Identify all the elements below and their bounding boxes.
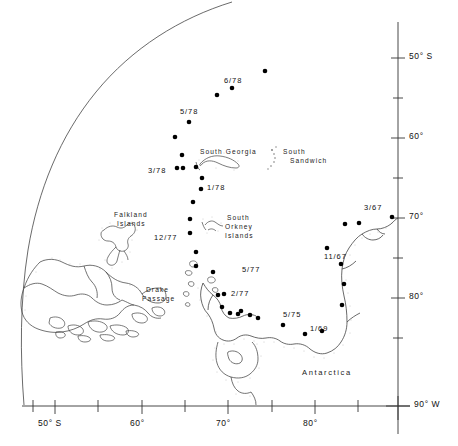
place-label-drake-line1: Drake — [146, 286, 169, 294]
station-dot — [215, 93, 220, 98]
station-dot — [343, 222, 348, 227]
axis-right-label-90w: 90° W — [414, 399, 440, 409]
place-label-drake-line2: Passage — [142, 295, 175, 303]
axis-bottom-label-70: 70° — [216, 418, 231, 428]
station-dot — [248, 313, 253, 318]
station-dot — [256, 316, 261, 321]
station-dot — [239, 309, 244, 314]
station-dot — [194, 264, 199, 269]
station-dot — [181, 166, 186, 171]
station-dot — [230, 86, 235, 91]
station-dot — [188, 231, 193, 236]
place-label-south-sandwich-line2: Sandwich — [290, 157, 327, 165]
station-dot — [342, 282, 347, 287]
station-dot — [175, 166, 180, 171]
station-dot — [339, 262, 344, 267]
station-dot — [216, 293, 221, 298]
station-label-1-78: 1/78 — [207, 183, 225, 192]
axis-right-label-80: 80° — [409, 291, 424, 301]
axis-bottom-label-60: 60° — [130, 418, 145, 428]
station-dot — [228, 311, 233, 316]
station-label-5-75: 5/75 — [283, 310, 301, 319]
place-label-south-georgia: South Georgia — [200, 148, 257, 156]
axis-right-label-60: 60° — [409, 131, 424, 141]
place-label-antarctica: Antarctica — [302, 368, 352, 377]
ice-shelf-stipple — [213, 344, 262, 403]
station-dot — [180, 153, 185, 158]
map-figure: 50° S 60° 70° 80° 90° W 50° S 60° 70° 80… — [0, 0, 458, 446]
station-label-3-67: 3/67 — [364, 203, 382, 212]
place-label-falkland-line1: Falkland — [114, 211, 148, 219]
station-dot — [199, 187, 204, 192]
station-label-11-67: 11/67 — [324, 252, 347, 261]
place-label-south-orkney-line3: Islands — [225, 232, 254, 240]
station-dot — [263, 69, 268, 74]
station-label-12-77: 12/77 — [154, 233, 177, 242]
station-dot — [222, 292, 227, 297]
station-label-5-78: 5/78 — [180, 107, 198, 116]
axis-right-label-50s: 50° S — [409, 51, 433, 61]
axis-bottom-label-50s: 50° S — [38, 418, 62, 428]
falkland-shelf-stipple — [99, 222, 138, 269]
station-dot — [187, 120, 192, 125]
station-dot — [281, 323, 286, 328]
falkland-islands-shape — [101, 223, 135, 265]
place-label-south-orkney-line1: South — [227, 214, 250, 222]
station-label-2-77: 2/77 — [231, 289, 249, 298]
south-sandwich-islands-shape — [267, 146, 276, 169]
station-dot — [220, 305, 225, 310]
station-dot — [194, 165, 199, 170]
station-label-5-77: 5/77 — [242, 265, 260, 274]
station-dot — [303, 332, 308, 337]
station-dot — [200, 176, 205, 181]
station-label-3-78: 3/78 — [148, 166, 166, 175]
station-dot — [390, 215, 395, 220]
axis-bottom-label-80: 80° — [303, 418, 318, 428]
station-dot — [357, 221, 362, 226]
station-dots-layer — [173, 69, 395, 337]
map-boundary-arc — [21, 2, 232, 405]
station-dot — [191, 200, 196, 205]
south-orkney-islands-shape — [202, 221, 223, 231]
station-dot — [340, 303, 345, 308]
station-label-1-69: 1/69 — [310, 324, 328, 333]
station-label-6-78: 6/78 — [224, 76, 242, 85]
place-label-falkland-line2: Islands — [117, 220, 146, 228]
station-dot — [325, 246, 330, 251]
axis-bottom-ticks — [33, 396, 398, 420]
station-dot — [211, 270, 216, 275]
ice-shelf-landmass — [216, 342, 258, 405]
place-label-south-orkney-line2: Orkney — [225, 223, 253, 231]
place-label-south-sandwich-line1: South — [283, 148, 306, 156]
station-dot — [173, 135, 178, 140]
station-dot — [194, 250, 199, 255]
south-shetland-islands-shape — [183, 261, 218, 307]
axis-lines — [22, 22, 410, 434]
south-georgia-shape — [196, 156, 239, 170]
axis-right-label-70: 70° — [409, 211, 424, 221]
antarctic-shelf-stipple — [198, 223, 393, 359]
station-dot — [188, 217, 193, 222]
